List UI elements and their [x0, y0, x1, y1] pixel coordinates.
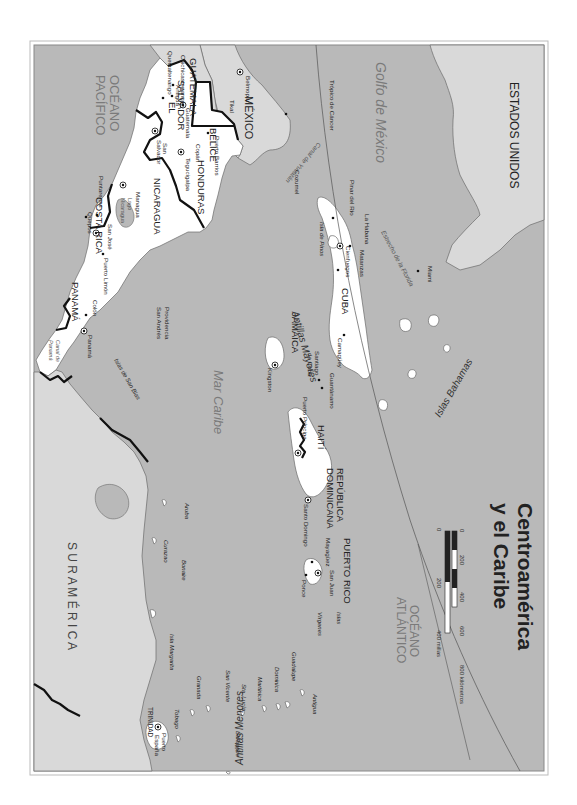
label-panama: PANAMÁ: [70, 282, 81, 322]
label-panama-city: Panamá: [87, 335, 94, 359]
label-mayaguez: Mayagüez: [325, 538, 332, 567]
label-dominicana: DOMINICANA: [325, 468, 336, 529]
label-estados-unidos: ESTADOS UNIDOS: [507, 82, 521, 188]
label-quetzaltenango: Quetzaltenango: [167, 51, 174, 95]
label-puerto-principe: Puerto Príncipe: [302, 397, 309, 440]
label-islas-virgenes-2: Vírgenes: [317, 612, 323, 636]
label-santo-domingo: Santo Domingo: [303, 504, 310, 547]
label-puerto-rico: PUERTO RICO: [342, 538, 353, 604]
map-title-line2: y el Caribe: [490, 503, 513, 609]
label-camaguey: Camagüey: [337, 338, 344, 369]
label-guantanamo: Guantánamo: [329, 373, 336, 409]
label-puntarenas: Puntarenas: [98, 176, 105, 208]
label-antigua: Antigua: [312, 693, 318, 715]
label-guatemala-city: Guatemala: [185, 108, 192, 139]
label-curazao: Curazao: [163, 540, 169, 563]
label-honduras: HONDURAS: [196, 160, 207, 214]
label-kingston: Kingston: [267, 368, 274, 393]
label-oceano-atlantico-1: OCÉANO: [407, 605, 422, 657]
label-belmopan: Belmopán: [245, 76, 252, 104]
label-suramerica: S U R A M É R I C A: [65, 542, 80, 650]
label-san-jose: San José: [107, 224, 114, 250]
label-bonaire: Bonaire: [181, 560, 187, 581]
scale-mi-400: 400 millas: [436, 630, 442, 657]
label-matanzas: Matanzas: [359, 250, 366, 277]
label-san-salvador-2: Salvador: [156, 140, 163, 164]
label-copan: Copán: [195, 144, 202, 163]
label-tobago: Tobago: [174, 709, 180, 729]
label-colon: Colón: [92, 300, 99, 317]
label-cuba: CUBA: [340, 288, 351, 315]
label-granada: Granada: [196, 676, 202, 700]
label-canal-de-panama-2: Panamá: [48, 340, 54, 361]
label-santiago-1: Santiago: [314, 351, 321, 376]
label-golfo-de-mexico: Golfo de México: [373, 62, 389, 163]
label-trinidad: TRINIDAD: [147, 707, 154, 738]
label-ponce: Ponce: [301, 580, 308, 598]
label-tropico-de-cancer: Trópico de Cáncer: [329, 80, 336, 131]
label-islas-virgenes-1: Islas: [336, 612, 342, 624]
scale-km-800: 800 kilómetros: [459, 665, 465, 704]
label-puerto-barrios: Puerto Barrios: [214, 136, 221, 176]
label-aruba: Aruba: [184, 502, 190, 520]
label-guadalupe: Guadalupe: [291, 652, 297, 682]
label-sta-lucia: Sta. Lucía: [241, 684, 247, 712]
label-managua: Managua: [135, 192, 142, 218]
label-san-vicente: San Vicente: [225, 670, 231, 703]
label-quepos: Quepos: [87, 212, 94, 234]
scale-km-400: 400: [459, 592, 465, 603]
label-tikal: Tikal: [229, 100, 236, 113]
label-antigua-gt: Antigua: [175, 85, 182, 107]
label-puerto-espana-2: España: [154, 735, 161, 757]
label-cozumel: Cozumel: [294, 170, 301, 194]
label-tegucigalpa: Tegucigalpa: [185, 158, 192, 192]
label-providencia: Providencia: [164, 307, 171, 340]
map-figure: Centroamérica y el Caribe 0 200 400 600 …: [0, 0, 577, 805]
label-santiago-2: de Cuba: [307, 353, 314, 377]
label-lago-nicaragua-2: Nicaragua: [120, 198, 126, 224]
label-puerto-espana-1: Puerto: [161, 733, 168, 752]
label-haiti: HAITÍ: [316, 425, 327, 450]
label-oceano-pacifico-1: OCÉANO: [107, 75, 122, 131]
label-barbados: Barbados: [235, 731, 241, 757]
label-cienfuegos: Cienfuegos: [345, 246, 352, 277]
scale-km-600: 600: [459, 626, 465, 637]
label-nicaragua: NICARAGUA: [152, 178, 163, 235]
label-miami: Miami: [427, 266, 434, 283]
label-dominica: Dominica: [274, 667, 280, 693]
scale-mi-200: 200: [436, 578, 442, 589]
label-isla-de-pinos: Isla de Pinos: [319, 222, 325, 256]
label-san-juan: San Juan: [329, 570, 336, 597]
label-san-andres: San Andrés: [156, 307, 163, 339]
label-isla-margarita: Isla Margarita: [169, 634, 175, 671]
label-puerto-limon: Puerto Limón: [103, 258, 110, 295]
label-la-habana: La Habana: [364, 214, 371, 245]
label-mar-caribe: Mar Caribe: [211, 370, 226, 434]
label-lago-nicaragua-1: Lago: [127, 198, 133, 210]
label-pinar-del-rio: Pinar del Río: [349, 180, 356, 216]
scale-km-200: 200: [459, 555, 465, 566]
label-oceano-atlantico-2: ATLÁNTICO: [394, 597, 409, 663]
label-oceano-pacifico-2: PACÍFICO: [93, 75, 108, 135]
label-martinica: Martinica: [257, 677, 263, 702]
label-canal-de-panama-1: Canal de: [55, 340, 61, 362]
map-title-line1: Centroamérica: [514, 503, 537, 650]
